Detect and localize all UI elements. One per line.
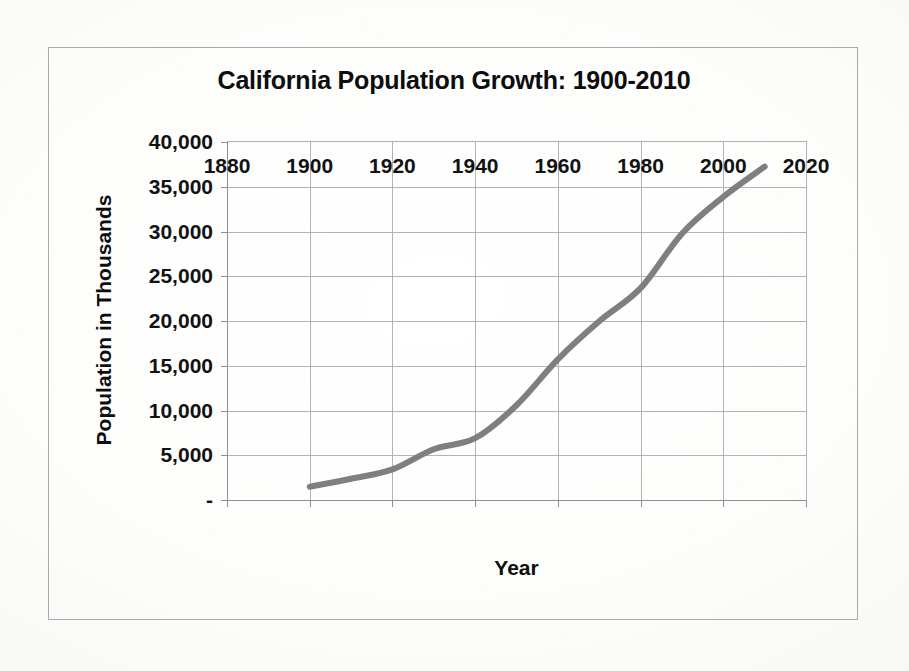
population-line-series [227, 142, 806, 500]
gridline-vertical [806, 142, 807, 500]
x-axis-tick [475, 500, 476, 507]
y-axis-tick-label: 30,000 [93, 220, 213, 244]
y-axis-tick-label: 35,000 [93, 175, 213, 199]
chart-title: California Population Growth: 1900-2010 [49, 66, 859, 95]
x-axis-tick [558, 500, 559, 507]
y-axis-tick-label: 15,000 [93, 354, 213, 378]
x-axis-title: Year [227, 556, 806, 580]
x-axis-tick [310, 500, 311, 507]
y-axis-tick-label: 5,000 [93, 443, 213, 467]
scanned-page: California Population Growth: 1900-2010 … [0, 0, 909, 671]
x-axis-tick [227, 500, 228, 507]
plot-area: -5,00010,00015,00020,00025,00030,00035,0… [227, 141, 807, 500]
chart-frame: California Population Growth: 1900-2010 … [48, 47, 858, 620]
x-axis-tick [806, 500, 807, 507]
x-axis-tick [641, 500, 642, 507]
x-axis-line [227, 500, 806, 501]
y-axis-tick-label: 20,000 [93, 309, 213, 333]
y-axis-tick-label: - [93, 488, 213, 512]
x-axis-tick [392, 500, 393, 507]
y-axis-tick-label: 25,000 [93, 264, 213, 288]
y-axis-tick-label: 40,000 [93, 130, 213, 154]
y-axis-tick-label: 10,000 [93, 399, 213, 423]
x-axis-tick [723, 500, 724, 507]
